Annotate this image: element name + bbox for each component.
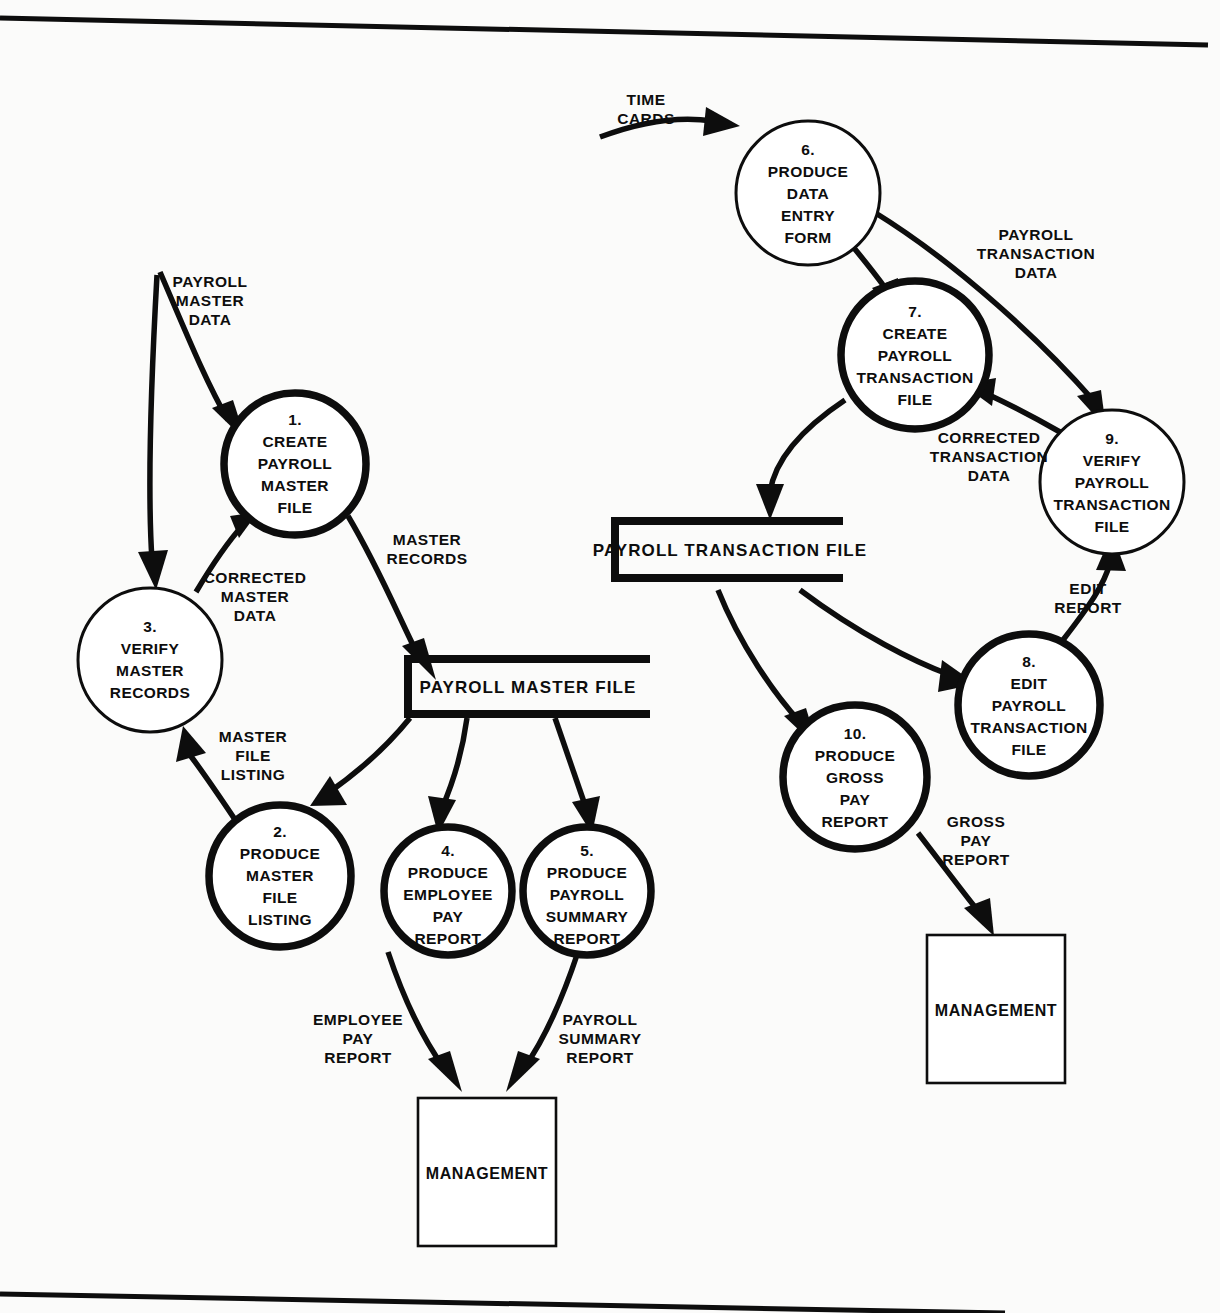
data-store-payroll-transaction-file[interactable]: PAYROLL TRANSACTION FILE — [593, 517, 868, 582]
flow-label-payroll-transaction-data: PAYROLL TRANSACTION DATA — [977, 226, 1095, 281]
process-9-line-4: FILE — [1094, 518, 1129, 535]
process-6-number: 6. — [801, 141, 815, 158]
process-8-edit-payroll-transaction-file[interactable]: 8. EDIT PAYROLL TRANSACTION FILE — [958, 634, 1100, 776]
flow-label-corrected-master-data: CORRECTED MASTER DATA — [204, 569, 307, 624]
top-rule — [0, 18, 1208, 45]
process-6-line-3: ENTRY — [781, 207, 835, 224]
flow-label-gross-pay-report: GROSS PAY REPORT — [942, 813, 1010, 868]
process-5-line-4: REPORT — [554, 930, 621, 947]
bottom-rule — [0, 1294, 1005, 1313]
flow-payroll-master-data-to-p3-arrow — [138, 275, 168, 590]
flow-label-time-cards-line-1: TIME — [626, 91, 665, 108]
flow-label-payroll-summary-report-line-3: REPORT — [566, 1049, 634, 1066]
flow-label-corrected-master-data-line-1: CORRECTED — [204, 569, 307, 586]
flow-label-corrected-master-data-line-2: MASTER — [221, 588, 289, 605]
process-6-line-4: FORM — [784, 229, 831, 246]
process-10-line-2: GROSS — [826, 769, 884, 786]
process-5-line-1: PRODUCE — [547, 864, 627, 881]
flow-label-gross-pay-report-line-2: PAY — [961, 832, 992, 849]
process-8-line-4: FILE — [1011, 741, 1046, 758]
process-5-produce-payroll-summary-report[interactable]: 5. PRODUCE PAYROLL SUMMARY REPORT — [523, 827, 651, 955]
process-2-number: 2. — [273, 823, 287, 840]
flow-label-master-records-line-2: RECORDS — [386, 550, 467, 567]
process-5-line-2: PAYROLL — [550, 886, 624, 903]
process-4-produce-employee-pay-report[interactable]: 4. PRODUCE EMPLOYEE PAY REPORT — [384, 827, 512, 955]
process-7-line-1: CREATE — [883, 325, 948, 342]
flow-label-master-file-listing-line-2: FILE — [235, 747, 271, 764]
process-2-produce-master-file-listing[interactable]: 2. PRODUCE MASTER FILE LISTING — [209, 805, 351, 947]
process-4-line-3: PAY — [433, 908, 464, 925]
process-1-line-3: MASTER — [261, 477, 329, 494]
external-entity-management-left[interactable]: MANAGEMENT — [418, 1098, 556, 1246]
process-6-produce-data-entry-form[interactable]: 6. PRODUCE DATA ENTRY FORM — [736, 121, 880, 265]
flow-label-payroll-master-data-line-1: PAYROLL — [173, 273, 248, 290]
process-9-verify-payroll-transaction-file[interactable]: 9. VERIFY PAYROLL TRANSACTION FILE — [1040, 410, 1184, 554]
process-9-line-2: PAYROLL — [1075, 474, 1149, 491]
process-1-number: 1. — [288, 411, 302, 428]
flow-store-to-p5-arrow — [555, 718, 600, 834]
process-1-line-1: CREATE — [263, 433, 328, 450]
flow-label-payroll-summary-report-line-1: PAYROLL — [563, 1011, 638, 1028]
data-store-payroll-transaction-file-label: PAYROLL TRANSACTION FILE — [593, 541, 868, 560]
data-store-payroll-master-file[interactable]: PAYROLL MASTER FILE — [404, 655, 650, 718]
process-5-line-3: SUMMARY — [546, 908, 629, 925]
flow-label-edit-report-line-2: REPORT — [1054, 599, 1122, 616]
flow-label-payroll-master-data: PAYROLL MASTER DATA — [173, 273, 248, 328]
process-10-line-4: REPORT — [822, 813, 889, 830]
process-4-line-4: REPORT — [415, 930, 482, 947]
flow-label-employee-pay-report: EMPLOYEE PAY REPORT — [313, 1011, 403, 1066]
flow-label-payroll-transaction-data-line-3: DATA — [1015, 264, 1058, 281]
process-4-number: 4. — [441, 842, 455, 859]
process-3-line-3: RECORDS — [110, 684, 190, 701]
flow-store-to-p8-arrow — [800, 590, 976, 692]
process-8-number: 8. — [1022, 653, 1036, 670]
process-7-line-3: TRANSACTION — [856, 369, 973, 386]
flow-label-edit-report-line-1: EDIT — [1069, 580, 1106, 597]
flow-label-corrected-transaction-data-line-1: CORRECTED — [938, 429, 1041, 446]
process-7-line-4: FILE — [897, 391, 932, 408]
process-2-line-4: LISTING — [248, 911, 312, 928]
process-10-produce-gross-pay-report[interactable]: 10. PRODUCE GROSS PAY REPORT — [783, 705, 927, 849]
external-entity-management-left-label: MANAGEMENT — [426, 1165, 548, 1182]
process-1-line-4: FILE — [277, 499, 312, 516]
process-1-create-payroll-master-file[interactable]: 1. CREATE PAYROLL MASTER FILE — [224, 393, 366, 535]
flow-label-master-file-listing: MASTER FILE LISTING — [219, 728, 287, 783]
flow-label-payroll-master-data-line-3: DATA — [189, 311, 232, 328]
flow-label-payroll-transaction-data-line-1: PAYROLL — [999, 226, 1074, 243]
flow-label-corrected-transaction-data: CORRECTED TRANSACTION DATA — [930, 429, 1048, 484]
process-1-line-2: PAYROLL — [258, 455, 332, 472]
flow-label-payroll-transaction-data-line-2: TRANSACTION — [977, 245, 1095, 262]
flow-label-employee-pay-report-line-2: PAY — [343, 1030, 374, 1047]
flow-p7-to-transaction-store-arrow — [756, 400, 845, 520]
process-7-create-payroll-transaction-file[interactable]: 7. CREATE PAYROLL TRANSACTION FILE — [841, 281, 989, 429]
process-6-line-2: DATA — [787, 185, 829, 202]
process-4-line-1: PRODUCE — [408, 864, 488, 881]
process-3-line-2: MASTER — [116, 662, 184, 679]
flow-label-gross-pay-report-line-3: REPORT — [942, 851, 1010, 868]
flow-label-gross-pay-report-line-1: GROSS — [947, 813, 1005, 830]
process-4-line-2: EMPLOYEE — [403, 886, 492, 903]
flow-label-corrected-transaction-data-line-3: DATA — [968, 467, 1011, 484]
flow-label-master-file-listing-line-3: LISTING — [221, 766, 286, 783]
process-2-line-2: MASTER — [246, 867, 314, 884]
process-2-line-3: FILE — [262, 889, 297, 906]
external-entity-management-right[interactable]: MANAGEMENT — [927, 935, 1065, 1083]
flow-label-master-file-listing-line-1: MASTER — [219, 728, 287, 745]
external-entity-management-right-label: MANAGEMENT — [935, 1002, 1057, 1019]
process-3-number: 3. — [143, 618, 157, 635]
process-5-number: 5. — [580, 842, 594, 859]
data-store-payroll-master-file-label: PAYROLL MASTER FILE — [419, 678, 636, 697]
process-10-line-1: PRODUCE — [815, 747, 895, 764]
flow-label-payroll-master-data-line-2: MASTER — [176, 292, 244, 309]
process-7-number: 7. — [908, 303, 922, 320]
process-9-number: 9. — [1105, 430, 1119, 447]
process-9-line-3: TRANSACTION — [1053, 496, 1170, 513]
process-3-line-1: VERIFY — [121, 640, 180, 657]
flow-label-time-cards-line-2: CARDS — [617, 110, 675, 127]
flow-label-master-records-line-1: MASTER — [393, 531, 461, 548]
flow-label-time-cards: TIME CARDS — [617, 91, 675, 127]
flow-label-corrected-transaction-data-line-2: TRANSACTION — [930, 448, 1048, 465]
process-2-line-1: PRODUCE — [240, 845, 320, 862]
flow-label-edit-report: EDIT REPORT — [1054, 580, 1122, 616]
process-3-verify-master-records[interactable]: 3. VERIFY MASTER RECORDS — [78, 588, 222, 732]
